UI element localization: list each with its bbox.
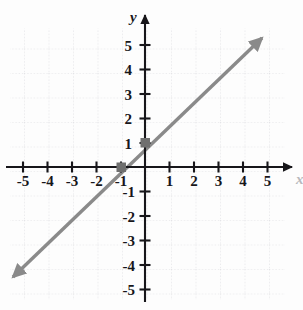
x-tick-label-neg3: -3 — [62, 174, 82, 189]
y-tick-label-1: 1 — [118, 137, 132, 152]
y-tick-label-neg2: -2 — [113, 210, 135, 225]
x-tick-label-1: 1 — [164, 174, 176, 189]
y-tick-label-neg5: -5 — [113, 283, 135, 298]
x-tick-label-4: 4 — [237, 174, 249, 189]
x-axis-name-label: x — [296, 172, 303, 187]
y-tick-label-3: 3 — [118, 88, 132, 103]
y-tick-label-neg3: -3 — [113, 234, 135, 249]
x-tick-label-neg2: -2 — [87, 174, 107, 189]
x-tick-label-3: 3 — [213, 174, 225, 189]
graph-canvas — [0, 0, 303, 310]
x-tick-label-neg5: -5 — [13, 174, 33, 189]
x-tick-label-2: 2 — [188, 174, 200, 189]
y-tick-label-2: 2 — [118, 112, 132, 127]
coordinate-plane-figure: -5 -4 -3 -2 -1 1 2 3 4 5 5 4 3 2 1 -1 -2… — [0, 0, 303, 310]
y-tick-label-4: 4 — [118, 63, 132, 78]
x-tick-label-neg4: -4 — [38, 174, 58, 189]
y-axis-name-label: y — [130, 10, 137, 25]
x-tick-label-5: 5 — [262, 174, 274, 189]
y-tick-label-neg4: -4 — [113, 259, 135, 274]
y-tick-label-neg1: -1 — [113, 185, 135, 200]
y-tick-label-5: 5 — [118, 39, 132, 54]
